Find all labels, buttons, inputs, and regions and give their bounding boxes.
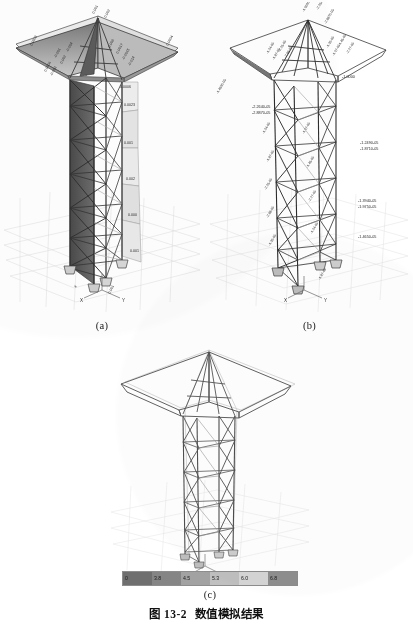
contour-colorbar-legend: 0 3.8 4.5 5.3 6.0 6.8 [122, 571, 298, 586]
tower-crossarm-wireframe [230, 20, 386, 82]
svg-text:-2.26-05: -2.26-05 [263, 177, 273, 190]
colorbar-tick-5: 6.8 [268, 576, 277, 581]
tower-bracing-right [106, 78, 122, 278]
svg-text:-2.27-05: -2.27-05 [345, 41, 355, 54]
svg-text:-1.3940-05: -1.3940-05 [358, 199, 376, 203]
colorbar-segment-3: 5.3 [210, 572, 239, 585]
svg-text:-1.24-05: -1.24-05 [261, 121, 271, 134]
svg-text:-1.87-05: -1.87-05 [265, 149, 275, 162]
svg-text:0.000: 0.000 [128, 213, 137, 217]
svg-text:X: X [73, 284, 78, 289]
colorbar-segment-2: 4.5 [181, 572, 210, 585]
panel-b-figure: X Y -1.4650-05 -1.0000 -2.2640-05 -2.887… [208, 2, 411, 318]
colorbar-tick-3: 5.3 [210, 576, 219, 581]
svg-text:-2.2640-05: -2.2640-05 [315, 2, 327, 11]
figure-page: X Y -0.001 0.002 -0.004 0.0006 -0.002 0.… [0, 0, 413, 628]
svg-text:0.0004: 0.0004 [165, 35, 174, 47]
colorbar-tick-0: 0 [123, 576, 128, 581]
panel-c-figure: X Y [105, 338, 315, 586]
colorbar-segment-4: 6.0 [239, 572, 268, 585]
deformed-bracing-back [197, 418, 219, 536]
svg-text:0.002: 0.002 [103, 9, 111, 19]
colorbar-tick-2: 4.5 [181, 576, 190, 581]
svg-text:0.0023: 0.0023 [124, 103, 135, 107]
colorbar-tick-4: 6.0 [239, 576, 248, 581]
figure-caption: 图 13-2数值模拟结果 [0, 605, 413, 621]
crossarm-shadow-b [232, 50, 272, 80]
svg-text:-2.8870-05: -2.8870-05 [323, 8, 335, 24]
svg-text:-1.0000: -1.0000 [301, 2, 310, 12]
axis-label-x-a: X [80, 298, 83, 303]
ground-grid-b [210, 186, 408, 312]
svg-text:-1.97-05: -1.97-05 [301, 121, 311, 134]
tower-shaft-right-face [122, 82, 141, 262]
tower-base-supports-b [272, 260, 342, 294]
svg-text:-1.2490-05: -1.2490-05 [360, 141, 378, 145]
svg-text:-2.2640-05: -2.2640-05 [252, 105, 270, 109]
deformed-bracing [183, 416, 235, 562]
colorbar-tick-1: 3.8 [152, 576, 161, 581]
svg-text:-1.4650-05: -1.4650-05 [358, 235, 376, 239]
axis-label-y-a: Y [122, 298, 125, 303]
axis-label-x-b: X [284, 298, 287, 303]
svg-text:-2.88-05: -2.88-05 [265, 205, 275, 218]
tower-bracing-back-b [294, 86, 320, 260]
svg-text:-1.9750-05: -1.9750-05 [358, 205, 376, 209]
svg-text:-2.27-05: -2.27-05 [307, 189, 317, 202]
panel-a-label: (a) [2, 320, 202, 331]
svg-text:-1.39-05: -1.39-05 [267, 233, 277, 246]
axis-label-y-b: Y [324, 298, 327, 303]
panel-a-figure: X Y -0.001 0.002 -0.004 0.0006 -0.002 0.… [2, 2, 202, 318]
ground-grid-c [111, 480, 309, 576]
svg-text:0.002: 0.002 [126, 177, 135, 181]
colorbar-segment-1: 3.8 [152, 572, 181, 585]
svg-text:-1.39-05: -1.39-05 [325, 35, 335, 48]
svg-text:-1.46-05: -1.46-05 [305, 155, 315, 168]
svg-text:-1.46-05: -1.46-05 [337, 33, 347, 46]
svg-text:0.001: 0.001 [130, 249, 139, 253]
svg-text:-1.4650-05: -1.4650-05 [215, 78, 227, 94]
undeformed-ghost-outline [125, 350, 295, 554]
figure-caption-number: 图 13-2 [149, 608, 187, 620]
svg-text:0.0006: 0.0006 [120, 85, 131, 89]
colorbar-segment-0: 0 [123, 572, 152, 585]
figure-caption-text: 数值模拟结果 [195, 608, 264, 620]
colorbar-segment-5: 6.8 [268, 572, 297, 585]
panel-c-label: (c) [105, 589, 315, 600]
svg-text:-2.8870-05: -2.8870-05 [252, 111, 270, 115]
svg-text:-1.8710-05: -1.8710-05 [360, 147, 378, 151]
panel-b-label: (b) [208, 320, 411, 331]
svg-text:0.001: 0.001 [91, 5, 99, 15]
svg-text:0.001: 0.001 [124, 141, 133, 145]
svg-text:-1.0000: -1.0000 [342, 75, 355, 79]
deformed-crossarm [121, 352, 291, 418]
